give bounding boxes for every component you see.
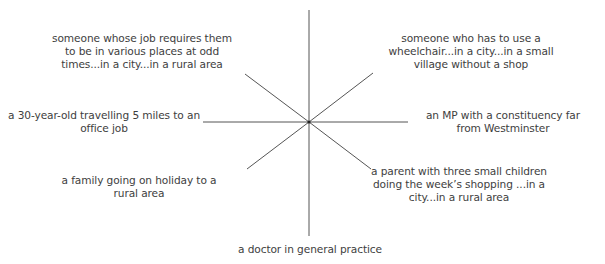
center-point	[307, 120, 310, 123]
label-right: an MP with a constituency far from Westm…	[413, 109, 593, 135]
label-upper-left: someone whose job requires them to be in…	[52, 32, 232, 71]
label-lower-left: a family going on holiday to a rural are…	[50, 174, 228, 200]
spoke-upper-left	[245, 74, 309, 122]
label-upper-right: someone who has to use a wheelchair...in…	[373, 32, 569, 71]
label-left: a 30-year-old travelling 5 miles to an o…	[6, 109, 202, 135]
label-lower-right: a parent with three small children doing…	[371, 165, 547, 204]
transport-needs-spoke-diagram: someone whose job requires them to be in…	[0, 0, 605, 264]
label-bottom: a doctor in general practice	[200, 243, 420, 256]
spoke-lower-left	[247, 122, 309, 169]
spoke-lower-right	[309, 122, 371, 169]
spoke-upper-right	[309, 73, 373, 122]
